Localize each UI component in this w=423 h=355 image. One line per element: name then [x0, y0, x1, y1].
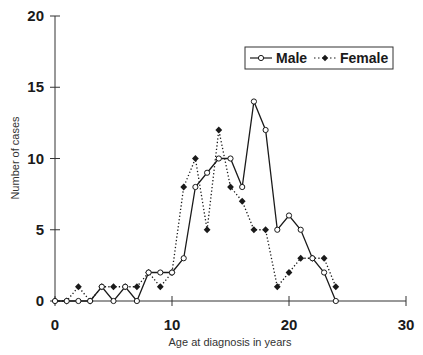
data-point-male [52, 298, 57, 303]
data-point-female [251, 226, 258, 233]
data-point-male [251, 99, 256, 104]
y-tick-label: 10 [27, 150, 44, 167]
legend-male-label: Male [276, 50, 307, 66]
data-point-male [76, 298, 81, 303]
data-point-male [216, 156, 221, 161]
x-tick-label: 0 [51, 316, 59, 333]
data-point-male [88, 298, 93, 303]
data-point-male [169, 270, 174, 275]
data-point-female [180, 184, 187, 191]
data-point-female [215, 127, 222, 134]
x-tick-label: 20 [281, 316, 298, 333]
series-layer [52, 99, 340, 305]
data-point-male [146, 270, 151, 275]
y-tick-label: 5 [36, 221, 44, 238]
data-point-female [262, 226, 269, 233]
data-point-male [333, 298, 338, 303]
line-chart: 05101520 0102030 Age at diagnosis in yea… [0, 0, 423, 355]
data-point-male [228, 156, 233, 161]
series-line-male [55, 102, 336, 302]
data-point-male [134, 298, 139, 303]
data-point-female [204, 226, 211, 233]
data-point-female [332, 283, 339, 290]
data-point-male [240, 184, 245, 189]
legend-female-label: Female [340, 50, 388, 66]
y-tick-label: 20 [27, 7, 44, 24]
data-point-female [157, 283, 164, 290]
legend: Male Female [245, 47, 393, 69]
y-tick-label: 15 [27, 78, 44, 95]
data-point-female [286, 269, 293, 276]
x-axis-title: Age at diagnosis in years [169, 336, 292, 348]
x-tick-label: 30 [398, 316, 415, 333]
data-point-female [321, 255, 328, 262]
data-point-female [192, 155, 199, 162]
data-point-male [322, 270, 327, 275]
data-point-male [275, 227, 280, 232]
series-male [52, 99, 338, 304]
legend-male-marker-icon [258, 55, 263, 60]
series-female [52, 127, 340, 305]
data-point-female [274, 283, 281, 290]
data-point-male [64, 298, 69, 303]
data-point-male [181, 256, 186, 261]
data-point-male [205, 170, 210, 175]
data-point-female [239, 198, 246, 205]
data-point-male [158, 270, 163, 275]
x-tick-label: 10 [164, 316, 181, 333]
data-point-male [310, 256, 315, 261]
data-point-male [123, 284, 128, 289]
data-point-male [111, 298, 116, 303]
data-point-male [193, 184, 198, 189]
data-point-male [286, 213, 291, 218]
data-point-male [99, 284, 104, 289]
data-point-male [298, 227, 303, 232]
y-axis-title: Number of cases [9, 116, 21, 200]
data-point-female [110, 283, 117, 290]
x-ticks: 0102030 [51, 296, 415, 333]
data-point-female [75, 283, 82, 290]
data-point-male [263, 127, 268, 132]
y-tick-label: 0 [36, 292, 44, 309]
